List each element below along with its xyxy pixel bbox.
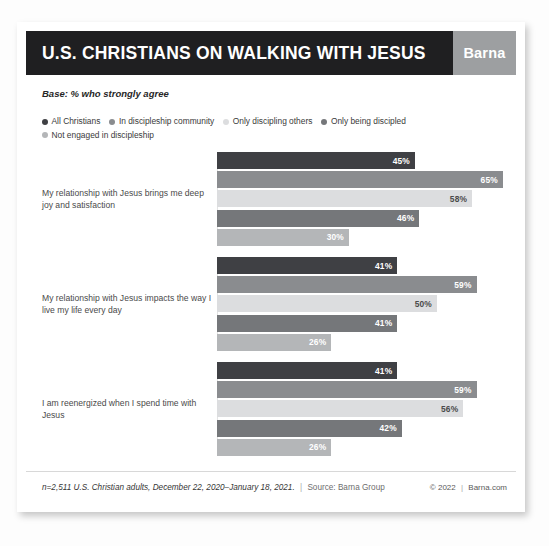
copyright-separator: | [458, 483, 466, 492]
bar[interactable]: 26% [217, 439, 331, 456]
bar[interactable]: 46% [217, 210, 419, 227]
bar-row: 42% [217, 420, 525, 437]
legend-item-1[interactable]: In discipleship community [109, 115, 214, 128]
category-label: My relationship with Jesus brings me dee… [17, 187, 217, 212]
bar[interactable]: 45% [217, 152, 415, 169]
bar[interactable]: 56% [217, 400, 463, 417]
legend-label: All Christians [52, 115, 101, 128]
legend-swatch-icon [223, 119, 229, 125]
bar-value-label: 56% [441, 404, 458, 414]
bar-value-label: 50% [415, 299, 432, 309]
bar-value-label: 65% [481, 175, 498, 185]
bar-value-label: 30% [327, 232, 344, 242]
legend-label: In discipleship community [119, 115, 214, 128]
base-note: Base: % who strongly agree [42, 88, 169, 99]
footer-separator: | [297, 483, 305, 492]
chart-legend: All ChristiansIn discipleship communityO… [42, 115, 507, 142]
bar-row: 59% [217, 381, 525, 398]
bar-row: 26% [217, 439, 525, 456]
website-link[interactable]: Barna.com [468, 483, 507, 492]
bar-value-label: 46% [397, 213, 414, 223]
bar-group: My relationship with Jesus impacts the w… [17, 257, 525, 351]
header-bar: U.S. CHRISTIANS ON WALKING WITH JESUS Ba… [26, 31, 516, 75]
bar-value-label: 45% [393, 156, 410, 166]
legend-item-2[interactable]: Only discipling others [223, 115, 312, 128]
bar[interactable]: 65% [217, 171, 503, 188]
footer-source-text: Source: Barna Group [307, 483, 384, 492]
bar[interactable]: 30% [217, 229, 349, 246]
page-title: U.S. CHRISTIANS ON WALKING WITH JESUS [26, 31, 453, 75]
bar-track: 41%59%56%42%26% [217, 362, 525, 456]
bar[interactable]: 41% [217, 362, 397, 379]
bar-value-label: 59% [454, 385, 471, 395]
bar-row: 26% [217, 334, 525, 351]
bar-value-label: 58% [450, 194, 467, 204]
bar-value-label: 26% [309, 337, 326, 347]
bar[interactable]: 41% [217, 315, 397, 332]
legend-item-4[interactable]: Not engaged in discipleship [42, 129, 154, 142]
bar[interactable]: 50% [217, 295, 437, 312]
brand-label: Barna [463, 45, 505, 61]
bar-row: 30% [217, 229, 525, 246]
bar-track: 41%59%50%41%26% [217, 257, 525, 351]
bar-row: 65% [217, 171, 525, 188]
legend-label: Only discipling others [233, 115, 313, 128]
bar-row: 58% [217, 190, 525, 207]
legend-swatch-icon [42, 119, 48, 125]
chart-area: My relationship with Jesus brings me dee… [17, 152, 525, 470]
bar[interactable]: 59% [217, 381, 477, 398]
bar-track: 45%65%58%46%30% [217, 152, 525, 246]
bar-value-label: 41% [375, 261, 392, 271]
category-label: My relationship with Jesus impacts the w… [17, 292, 217, 317]
bar[interactable]: 26% [217, 334, 331, 351]
bar-row: 41% [217, 257, 525, 274]
legend-swatch-icon [321, 119, 327, 125]
legend-swatch-icon [42, 132, 48, 138]
bar-group: My relationship with Jesus brings me dee… [17, 152, 525, 246]
bar-group: I am reenergized when I spend time with … [17, 362, 525, 456]
brand-logo: Barna [453, 31, 516, 75]
copyright-year: © 2022 [430, 483, 456, 492]
bar-row: 41% [217, 362, 525, 379]
bar-value-label: 59% [454, 280, 471, 290]
bar-value-label: 41% [375, 318, 392, 328]
bar-row: 56% [217, 400, 525, 417]
bar-row: 45% [217, 152, 525, 169]
footer-sample-note: n=2,511 U.S. Christian adults, December … [42, 483, 430, 492]
bar[interactable]: 41% [217, 257, 397, 274]
bar-row: 41% [217, 315, 525, 332]
bar-value-label: 42% [379, 423, 396, 433]
bar-value-label: 26% [309, 442, 326, 452]
sample-size-text: n=2,511 U.S. Christian adults, December … [42, 483, 295, 492]
bar[interactable]: 42% [217, 420, 402, 437]
legend-item-3[interactable]: Only being discipled [321, 115, 405, 128]
bar[interactable]: 58% [217, 190, 472, 207]
legend-label: Only being discipled [331, 115, 406, 128]
bar-value-label: 41% [375, 366, 392, 376]
legend-label: Not engaged in discipleship [52, 129, 154, 142]
bar-row: 59% [217, 276, 525, 293]
bar-row: 46% [217, 210, 525, 227]
infographic-card: U.S. CHRISTIANS ON WALKING WITH JESUS Ba… [17, 22, 525, 512]
footer-copyright: © 2022 | Barna.com [430, 483, 507, 492]
legend-item-0[interactable]: All Christians [42, 115, 100, 128]
bar[interactable]: 59% [217, 276, 477, 293]
bar-row: 50% [217, 295, 525, 312]
category-label: I am reenergized when I spend time with … [17, 397, 217, 422]
footer-bar: n=2,511 U.S. Christian adults, December … [26, 471, 516, 502]
legend-swatch-icon [109, 119, 115, 125]
